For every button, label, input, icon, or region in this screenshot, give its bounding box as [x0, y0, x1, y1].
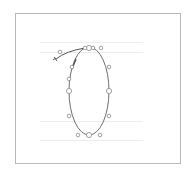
bezier-control-handle[interactable]	[98, 133, 102, 137]
bezier-control-handle[interactable]	[67, 114, 71, 118]
glyph-drawing-area[interactable]	[0, 0, 192, 172]
glyph-editor-canvas[interactable]	[0, 0, 192, 172]
bezier-control-handle[interactable]	[107, 65, 111, 69]
bezier-control-handle[interactable]	[76, 133, 80, 137]
on-curve-point-handle[interactable]	[106, 88, 111, 93]
bezier-control-handle[interactable]	[99, 46, 103, 50]
on-curve-point-handle[interactable]	[86, 132, 91, 137]
metric-guides	[40, 43, 143, 141]
bezier-control-handle[interactable]	[58, 50, 62, 54]
control-points[interactable]	[58, 45, 111, 137]
bezier-control-handle[interactable]	[83, 46, 87, 50]
bezier-control-handle[interactable]	[91, 46, 95, 50]
bezier-control-handle[interactable]	[107, 114, 111, 118]
bezier-control-handle[interactable]	[70, 65, 74, 69]
on-curve-point-handle[interactable]	[66, 88, 71, 93]
bezier-control-handle[interactable]	[67, 77, 71, 81]
